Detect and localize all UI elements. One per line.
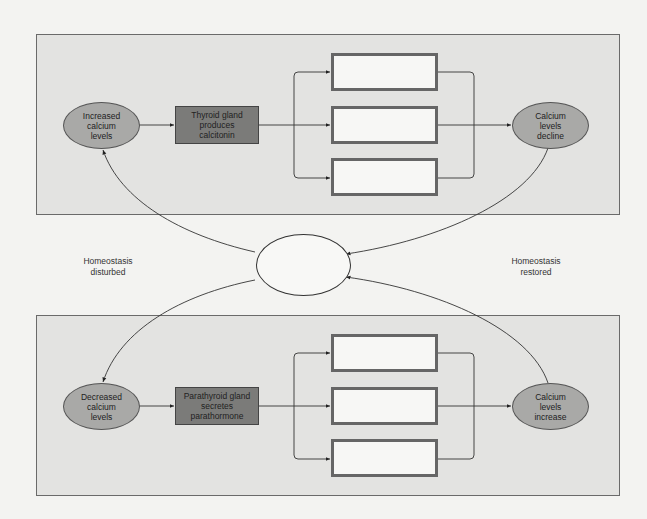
homeostasis-disturbed-label: Homeostasis disturbed bbox=[68, 256, 148, 278]
parathyroid-gland-box: Parathyroid gland secretes parathormone bbox=[175, 387, 259, 425]
homeostasis-center-oval[interactable] bbox=[256, 234, 351, 296]
thyroid-gland-box: Thyroid gland produces calcitonin bbox=[175, 106, 259, 144]
thyroid-gland-label: Thyroid gland produces calcitonin bbox=[191, 110, 243, 140]
calcium-increase-label: Calcium levels increase bbox=[534, 392, 566, 422]
parathyroid-gland-label: Parathyroid gland secretes parathormone bbox=[184, 391, 251, 421]
homeostasis-restored-label: Homeostasis restored bbox=[496, 256, 576, 278]
top-effect-box-2[interactable] bbox=[331, 106, 438, 144]
calcium-increase-oval: Calcium levels increase bbox=[512, 383, 589, 430]
increased-calcium-label: Increased calcium levels bbox=[83, 111, 120, 141]
bottom-effect-box-3[interactable] bbox=[331, 439, 438, 477]
bottom-effect-box-2[interactable] bbox=[331, 387, 438, 425]
calcium-decline-label: Calcium levels decline bbox=[535, 111, 566, 141]
decreased-calcium-oval: Decreased calcium levels bbox=[63, 383, 140, 430]
decreased-calcium-label: Decreased calcium levels bbox=[81, 392, 122, 422]
bottom-effect-box-1[interactable] bbox=[331, 334, 438, 372]
increased-calcium-oval: Increased calcium levels bbox=[63, 102, 140, 149]
top-effect-box-1[interactable] bbox=[331, 53, 438, 91]
calcium-decline-oval: Calcium levels decline bbox=[512, 102, 589, 149]
top-effect-box-3[interactable] bbox=[331, 158, 438, 196]
